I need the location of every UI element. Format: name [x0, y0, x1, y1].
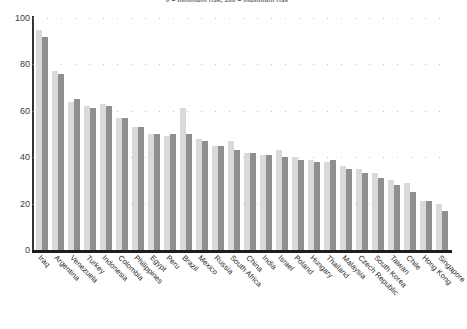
x-label-cell: Venezuela: [66, 252, 82, 314]
y-axis-tick-labels: 100806040200: [0, 18, 30, 250]
bar: [346, 169, 352, 250]
bar-group: [162, 18, 178, 250]
bar-group: [130, 18, 146, 250]
x-label-cell: India: [258, 252, 274, 314]
y-tick-label: 60: [4, 106, 30, 115]
x-label-cell: Taiwan: [386, 252, 402, 314]
x-label-cell: South Africa: [226, 252, 242, 314]
x-label-cell: Turkey: [82, 252, 98, 314]
bar: [154, 134, 160, 250]
bar-group: [82, 18, 98, 250]
bar-group: [290, 18, 306, 250]
bar: [202, 141, 208, 250]
bar: [90, 108, 96, 250]
bar-group: [194, 18, 210, 250]
x-label-cell: Hong Kong: [418, 252, 434, 314]
x-label-cell: Chile: [402, 252, 418, 314]
bar: [330, 160, 336, 250]
bar-group: [354, 18, 370, 250]
bar: [42, 37, 48, 250]
x-label-cell: Malaysia: [338, 252, 354, 314]
x-label-cell: Philippines: [130, 252, 146, 314]
x-label-cell: Poland: [290, 252, 306, 314]
y-tick-label: 100: [4, 14, 30, 23]
bar-group: [226, 18, 242, 250]
x-axis-category-labels: IraqArgentinaVenezuelaTurkeyIndonesiaCol…: [33, 252, 451, 314]
bar: [186, 134, 192, 250]
x-label-cell: Mexico: [194, 252, 210, 314]
bar-group: [434, 18, 450, 250]
bar: [410, 192, 416, 250]
bar: [282, 157, 288, 250]
y-tick-label: 80: [4, 60, 30, 69]
bar: [234, 150, 240, 250]
bar-group: [66, 18, 82, 250]
x-label-cell: Indonesia: [98, 252, 114, 314]
x-label-cell: Argentina: [50, 252, 66, 314]
x-label-cell: South Korea: [370, 252, 386, 314]
x-label-cell: Peru: [162, 252, 178, 314]
bar: [58, 74, 64, 250]
bar-group: [402, 18, 418, 250]
bar-group: [306, 18, 322, 250]
x-label-cell: Czech Republic: [354, 252, 370, 314]
bar-group: [98, 18, 114, 250]
bar-group: [370, 18, 386, 250]
x-label-cell: Colombia: [114, 252, 130, 314]
bar: [250, 153, 256, 250]
bar: [122, 118, 128, 250]
x-label-cell: Brazil: [178, 252, 194, 314]
chart-caption: 0 = minimum risk, 100 = maximum risk: [0, 0, 454, 4]
bar: [74, 99, 80, 250]
x-label-cell: Iraq: [34, 252, 50, 314]
bar: [138, 127, 144, 250]
bar-group: [34, 18, 50, 250]
bar: [378, 178, 384, 250]
x-label-cell: Russia: [210, 252, 226, 314]
bar: [362, 173, 368, 250]
y-tick-label: 0: [4, 246, 30, 255]
bar: [442, 211, 448, 250]
plot-area: [33, 18, 451, 250]
bar-group: [338, 18, 354, 250]
bar: [314, 162, 320, 250]
bar: [394, 185, 400, 250]
x-label-cell: Hungary: [306, 252, 322, 314]
bar-group: [178, 18, 194, 250]
x-label-cell: Israel: [274, 252, 290, 314]
bar-group: [210, 18, 226, 250]
bar-group: [146, 18, 162, 250]
bar-group: [418, 18, 434, 250]
bar: [218, 146, 224, 250]
bar: [106, 106, 112, 250]
x-label-cell: Singapore: [434, 252, 450, 314]
bar-group: [386, 18, 402, 250]
y-tick-label: 20: [4, 199, 30, 208]
y-tick-label: 40: [4, 153, 30, 162]
bar-group: [50, 18, 66, 250]
bar-group: [114, 18, 130, 250]
x-label-cell: China: [242, 252, 258, 314]
x-label-cell: Thailand: [322, 252, 338, 314]
bar-groups: [33, 18, 451, 250]
bar-group: [274, 18, 290, 250]
bar-group: [242, 18, 258, 250]
bar-group: [322, 18, 338, 250]
bar: [170, 134, 176, 250]
bar: [266, 155, 272, 250]
bar: [426, 201, 432, 250]
x-label-cell: Egypt: [146, 252, 162, 314]
bar: [298, 160, 304, 250]
bar-group: [258, 18, 274, 250]
source-note: [6, 322, 452, 329]
